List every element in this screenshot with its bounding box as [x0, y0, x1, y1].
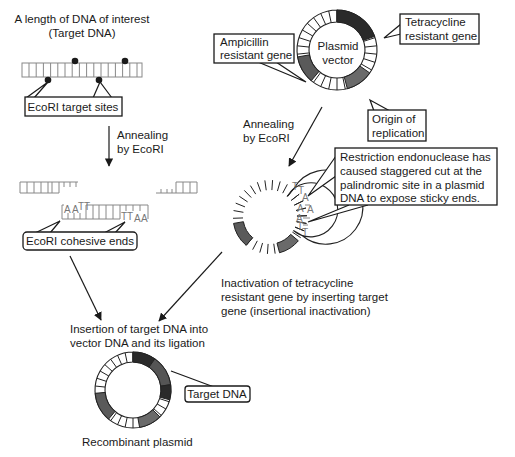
- origin-callout: Origin of replication: [368, 100, 426, 141]
- restriction-callout-line1: Restriction endonuclease has: [340, 151, 491, 163]
- sticky-base: T: [84, 201, 90, 212]
- step1-arrow: Annealing by EcoRI: [109, 126, 168, 166]
- ecori-site-dot: [72, 58, 79, 65]
- recombinant-plasmid-ring: [95, 352, 171, 428]
- insertion-label-line2: vector DNA and its ligation: [70, 337, 205, 349]
- right-fragment: [156, 182, 197, 193]
- restriction-callout-line4: DNA to expose sticky ends.: [340, 192, 480, 204]
- cohesive-ends-label: EcoRI cohesive ends: [26, 235, 134, 247]
- ampicillin-label-line1: Ampicillin: [220, 36, 269, 48]
- step2-label-line2: by EcoRI: [243, 132, 290, 144]
- left-fragment: [20, 182, 78, 193]
- step2-arrow: Annealing by EcoRI: [243, 107, 322, 166]
- inactivation-caption-line3: gene (insertional inactivation): [221, 305, 371, 317]
- origin-label-line1: Origin of: [372, 113, 416, 125]
- ecori-sites-label: EcoRI target sites: [28, 101, 119, 113]
- ampicillin-gene-segment: [234, 222, 253, 246]
- tetracycline-gene-segment: [337, 10, 375, 40]
- ampicillin-gene-segment: [95, 392, 115, 419]
- ampicillin-label-line2: resistant gene: [220, 49, 292, 61]
- restriction-callout-line3: palindromic site in a plasmid: [340, 179, 484, 191]
- inactivation-caption: Inactivation of tetracycline resistant g…: [221, 277, 389, 317]
- ecori-site-dot: [96, 77, 103, 84]
- recombinant-plasmid: [95, 352, 171, 428]
- sticky-base: A: [64, 204, 71, 215]
- target-dna-callout: Target DNA: [171, 371, 250, 402]
- inactivation-caption-line1: Inactivation of tetracycline: [221, 277, 353, 289]
- origin-label-line2: replication: [372, 127, 424, 139]
- target-dna-heading: A length of DNA of interest: [15, 13, 151, 25]
- plasmid-vector: Plasmid vector: [297, 10, 377, 90]
- ecori-site-dot: [122, 58, 129, 65]
- tetracycline-label-line1: Tetracycline: [405, 16, 466, 28]
- sticky-base: A: [141, 213, 148, 224]
- ecori-sites-callout: EcoRI target sites: [25, 82, 122, 116]
- middle-fragment: A A T T T T A A: [62, 201, 148, 224]
- step1-label-line1: Annealing: [117, 129, 168, 141]
- linear-dna-strand: [22, 63, 142, 77]
- target-dna-subheading: (Target DNA): [48, 27, 115, 39]
- plasmid-vector-label-line2: vector: [322, 54, 353, 66]
- ampicillin-callout: Ampicillin resistant gene: [214, 34, 306, 82]
- target-dna-segment: [149, 359, 171, 386]
- restriction-callout: Restriction endonuclease has caused stag…: [308, 148, 497, 222]
- cut-dna-fragments: A A T T T T A A EcoRI cohesive ends: [20, 182, 197, 250]
- insertion-label-line1: Insertion of target DNA into: [70, 323, 208, 335]
- step2-label-line1: Annealing: [243, 118, 294, 130]
- cohesive-ends-callout: EcoRI cohesive ends: [23, 221, 137, 250]
- tetracycline-callout: Tetracycline resistant gene: [384, 14, 479, 44]
- sticky-base: T: [127, 211, 133, 222]
- target-dna-section: A length of DNA of interest (Target DNA)…: [15, 13, 151, 116]
- arrow-to-insertion-left: [70, 256, 101, 320]
- sticky-ends-bases: T T A A A A T T: [292, 181, 314, 238]
- tetracycline-label-line2: resistant gene: [405, 30, 477, 42]
- target-dna-label: Target DNA: [187, 388, 247, 400]
- sticky-base: A: [134, 213, 141, 224]
- inactivation-caption-line2: resistant gene by inserting target: [221, 291, 389, 303]
- sticky-base: A: [302, 192, 309, 203]
- origin-segment: [277, 234, 298, 252]
- insertion-step: Insertion of target DNA into vector DNA …: [70, 323, 208, 349]
- recombinant-dna-diagram: A length of DNA of interest (Target DNA)…: [0, 0, 515, 457]
- tetracycline-gene-part: [160, 385, 171, 400]
- plasmid-vector-label-line1: Plasmid: [318, 40, 359, 52]
- recombinant-caption: Recombinant plasmid: [82, 436, 193, 448]
- sticky-base: T: [302, 227, 308, 238]
- step1-label-line2: by EcoRI: [117, 143, 164, 155]
- sticky-base: A: [307, 204, 314, 215]
- restriction-callout-line2: caused staggered cut at the: [340, 165, 482, 177]
- arrow-to-insertion-right: [159, 252, 222, 321]
